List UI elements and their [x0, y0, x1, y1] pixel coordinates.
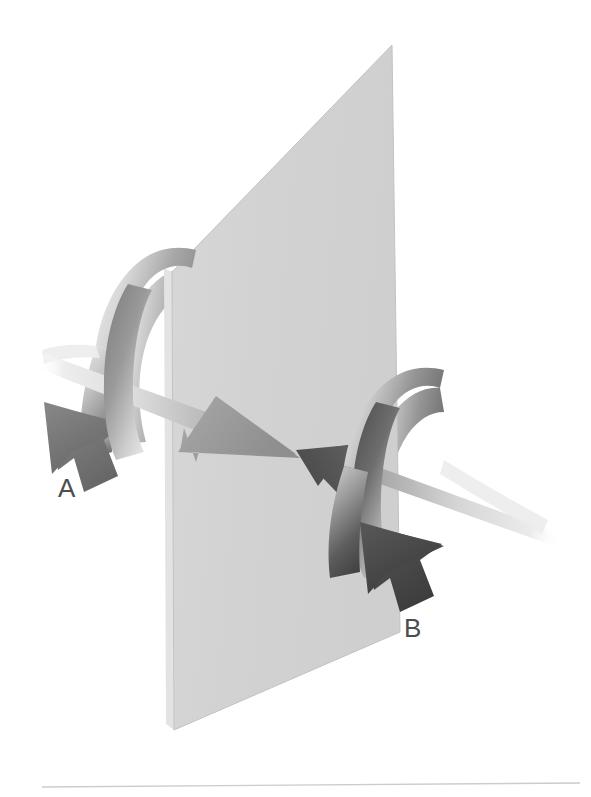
label-a: A — [58, 473, 76, 503]
figure-root: A B — [0, 0, 591, 797]
diagram-canvas: A B — [0, 0, 591, 797]
label-b: B — [404, 613, 422, 643]
